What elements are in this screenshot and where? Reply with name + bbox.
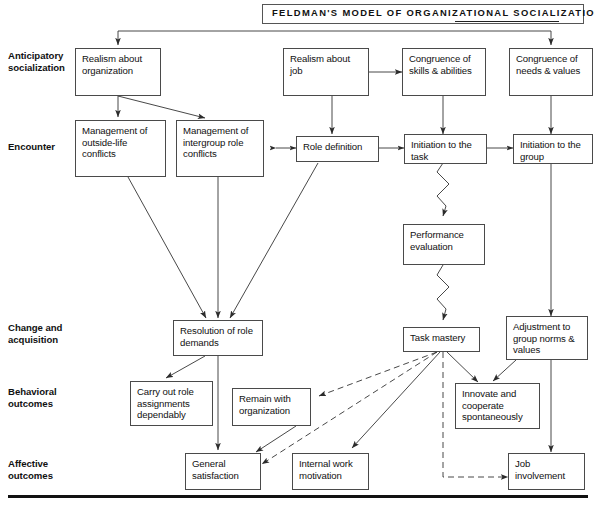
box-initiation-to-the-group[interactable]: Initiation to the group <box>513 134 593 164</box>
stage-label-line2: socialization <box>8 62 65 73</box>
stage-label-line2: outcomes <box>8 470 53 481</box>
box-general-satisfaction[interactable]: General satisfaction <box>185 453 261 490</box>
box-management-of-intergroup-role-conflicts[interactable]: Management of intergroup role conflicts <box>176 120 264 177</box>
box-adjustment-to-group-norms-values[interactable]: Adjustment to group norms & values <box>506 316 588 360</box>
title-underline <box>455 21 559 22</box>
box-congruence-of-skills-abilities[interactable]: Congruence of skills & abilities <box>402 48 486 96</box>
stage-label-line1: Anticipatory <box>8 50 63 61</box>
stage-label-encounter: Encounter <box>8 141 55 153</box>
box-management-of-outside-life-conflicts[interactable]: Management of outside-life conflicts <box>75 120 166 177</box>
box-carry-out-role-assignments-dependably[interactable]: Carry out role assignments dependably <box>130 381 213 426</box>
stage-label-anticipatory: Anticipatory socialization <box>8 50 65 73</box>
diagram-canvas: Feldman's Model of Organizational Social… <box>0 0 595 515</box>
stage-label-line1: Encounter <box>8 141 55 152</box>
stage-label-line1: Affective <box>8 458 48 469</box>
box-realism-about-job[interactable]: Realism about job <box>283 48 369 96</box>
box-initiation-to-the-task[interactable]: Initiation to the task <box>404 134 487 164</box>
stage-label-line1: Behavioral <box>8 386 57 397</box>
stage-label-change-acquisition: Change and acquisition <box>8 322 62 345</box>
stage-label-line2: outcomes <box>8 398 53 409</box>
stage-label-affective-outcomes: Affective outcomes <box>8 458 53 481</box>
box-job-involvement[interactable]: Job involvement <box>508 453 585 490</box>
box-internal-work-motivation[interactable]: Internal work motivation <box>292 453 369 490</box>
box-task-mastery[interactable]: Task mastery <box>403 327 480 352</box>
bottom-divider <box>8 495 588 498</box>
stage-label-behavioral-outcomes: Behavioral outcomes <box>8 386 57 409</box>
box-performance-evaluation[interactable]: Performance evaluation <box>403 224 485 265</box>
box-remain-with-organization[interactable]: Remain with organization <box>232 388 311 426</box>
box-innovate-and-cooperate-spontaneously[interactable]: Innovate and cooperate spontaneously <box>455 383 540 429</box>
box-role-definition[interactable]: Role definition <box>296 136 379 162</box>
stage-label-line1: Change and <box>8 322 62 333</box>
stage-label-line2: acquisition <box>8 334 58 345</box>
box-congruence-of-needs-values[interactable]: Congruence of needs & values <box>509 48 593 96</box>
box-realism-about-organization[interactable]: Realism about organization <box>75 48 161 96</box>
box-resolution-of-role-demands[interactable]: Resolution of role demands <box>173 320 263 356</box>
page-title: Feldman's Model of Organizational Social… <box>272 7 577 18</box>
